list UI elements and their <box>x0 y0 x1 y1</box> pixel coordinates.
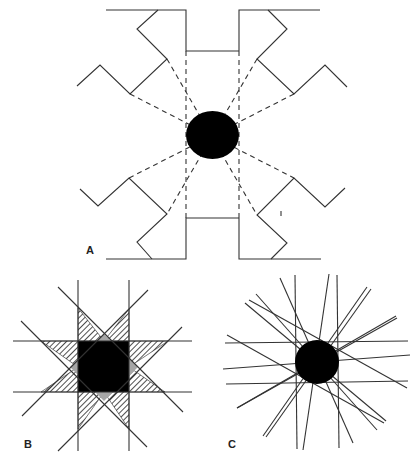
panel-b-hatched-triangle <box>41 367 78 392</box>
panel-a-top-right-outline <box>239 10 320 51</box>
panel-b-label: B <box>24 438 32 450</box>
panel-c-label: C <box>228 438 236 450</box>
panel-c-central-disc <box>295 340 339 384</box>
panel-b-hatched-triangle <box>78 308 104 341</box>
panel-a: A <box>77 10 347 259</box>
panel-a-top-right-zigzag <box>257 10 347 94</box>
panel-b: B <box>13 280 192 451</box>
panel-c: C <box>223 274 410 450</box>
panel-a-central-disc <box>186 111 239 159</box>
panel-a-bottom-right-outline <box>239 218 321 259</box>
panel-a-bottom-left-outline <box>106 218 239 259</box>
panel-b-hatched-triangle <box>41 341 78 367</box>
panel-a-top-left-zigzag <box>77 10 167 94</box>
panel-a-top-left-outline <box>106 10 239 51</box>
panel-b-hatched-triangle <box>78 392 104 429</box>
panel-a-bottom-right-zigzag <box>257 178 345 259</box>
figure: A B <box>0 0 417 456</box>
panel-b-hatched-triangle <box>104 392 129 429</box>
panel-b-black-square <box>78 341 129 392</box>
panel-a-label: A <box>86 244 94 256</box>
